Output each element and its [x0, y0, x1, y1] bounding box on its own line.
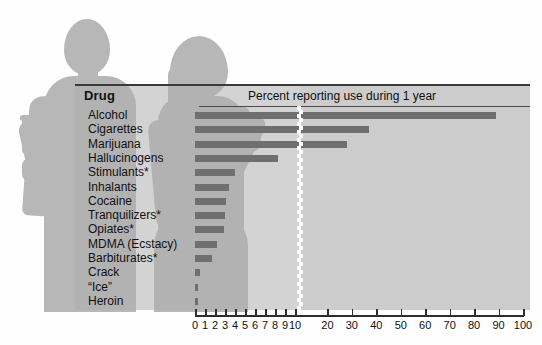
axis-tick [523, 309, 525, 316]
bar [195, 226, 224, 233]
bar-label: Opiates* [88, 222, 134, 236]
axis-tick [327, 309, 329, 316]
bar-label: Hallucinogens [88, 151, 163, 165]
man-hand-silhouette [22, 158, 44, 182]
axis-tick-label: 70 [444, 319, 456, 331]
panel-top-rule [75, 84, 530, 86]
axis-tick-label: 90 [492, 319, 504, 331]
axis-tick-label: 60 [419, 319, 431, 331]
bar-label: Crack [88, 265, 119, 279]
axis-tick-label: 20 [321, 319, 333, 331]
axis-tick-label: 8 [272, 319, 278, 331]
axis-tick [265, 309, 267, 316]
axis-tick-label: 50 [395, 319, 407, 331]
bar-label: Cocaine [88, 194, 132, 208]
axis-tick [275, 309, 277, 316]
axis-tick [205, 309, 207, 316]
axis-tick [474, 309, 476, 316]
axis-break-marker [297, 106, 303, 310]
axis-tick-label: 3 [222, 319, 228, 331]
bar [195, 126, 369, 133]
axis-tick [195, 309, 197, 316]
bar-label: Tranquilizers* [88, 208, 161, 222]
column-header-drug: Drug [84, 88, 115, 103]
axis-tick-label: 7 [262, 319, 268, 331]
axis-tick-label: 10 [289, 319, 301, 331]
bar [195, 269, 200, 276]
bar-label: Heroin [88, 294, 123, 308]
bar [195, 212, 225, 219]
bar-label: Inhalants [88, 180, 137, 194]
axis-tick [295, 309, 297, 316]
axis-tick [376, 309, 378, 316]
bar-label: Alcohol [88, 108, 127, 122]
axis-tick [215, 309, 217, 316]
bar [195, 169, 235, 176]
bar [195, 141, 347, 148]
axis-tick [352, 309, 354, 316]
axis-tick [235, 309, 237, 316]
chart-title: Percent reporting use during 1 year [248, 89, 436, 103]
axis-tick-label: 9 [282, 319, 288, 331]
axis-tick-label: 100 [514, 319, 532, 331]
axis-tick-label: 4 [232, 319, 238, 331]
bar [195, 184, 229, 191]
axis-tick-label: 0 [192, 319, 198, 331]
axis-tick-label: 30 [346, 319, 358, 331]
bar-label: “Ice” [88, 280, 112, 294]
axis-tick-label: 5 [242, 319, 248, 331]
bar [195, 198, 226, 205]
axis-tick-label: 6 [252, 319, 258, 331]
man-head-silhouette [64, 19, 110, 75]
axis-tick-label: 2 [212, 319, 218, 331]
axis-tick [499, 309, 501, 316]
axis-tick [450, 309, 452, 316]
bar [195, 241, 217, 248]
axis-tick-label: 40 [370, 319, 382, 331]
bar [195, 255, 212, 262]
axis-tick [255, 309, 257, 316]
bar-label: Marijuana [88, 137, 141, 151]
bar [195, 298, 198, 305]
plot-area-top-rule [199, 106, 530, 107]
axis-tick [225, 309, 227, 316]
axis-tick [285, 309, 287, 316]
axis-tick [401, 309, 403, 316]
axis-tick [245, 309, 247, 316]
cup-icon [22, 117, 48, 155]
cup-rim-icon [20, 115, 50, 121]
bar [195, 112, 496, 119]
chart-figure: Drug Percent reporting use during 1 year… [0, 0, 542, 345]
axis-tick-label: 80 [468, 319, 480, 331]
bar-label: Stimulants* [88, 165, 149, 179]
bar-label: Cigarettes [88, 122, 143, 136]
bar [195, 155, 278, 162]
axis-tick [425, 309, 427, 316]
axis-tick-label: 1 [202, 319, 208, 331]
bar-label: Barbiturates* [88, 251, 157, 265]
bar [195, 284, 198, 291]
bar-label: MDMA (Ecstacy) [88, 237, 177, 251]
